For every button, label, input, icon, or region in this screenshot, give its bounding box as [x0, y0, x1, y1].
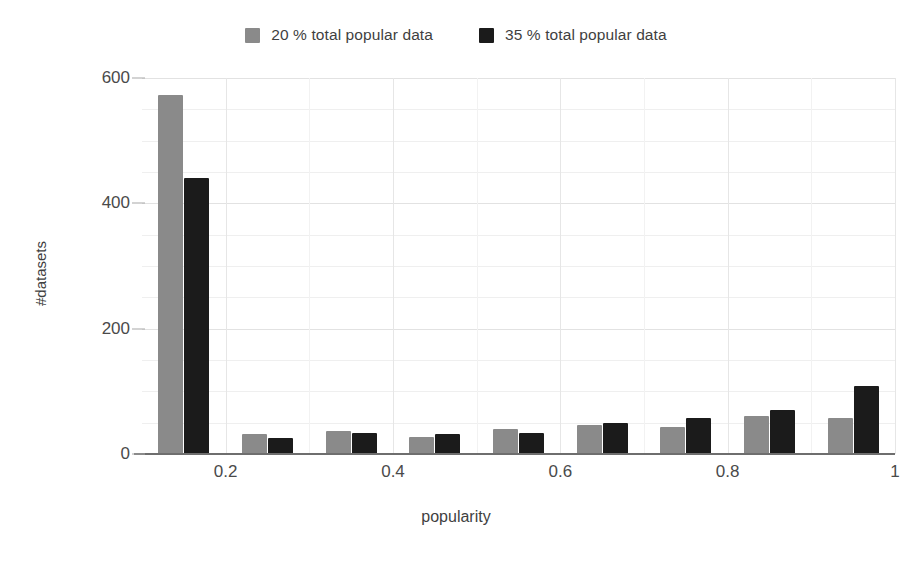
gridline-x-minor: [811, 78, 812, 454]
gridline-x-minor: [309, 78, 310, 454]
gridline-y-minor: [142, 141, 895, 142]
legend-swatch-series-1: [245, 28, 260, 43]
x-tick-label-1: 0.4: [381, 462, 405, 482]
bar-series-1-point-8[interactable]: [828, 418, 853, 454]
bar-series-2-point-4[interactable]: [519, 433, 544, 454]
legend-label-series-1: 20 % total popular data: [271, 26, 433, 44]
gridline-x-major: [895, 78, 896, 454]
bar-series-1-point-5[interactable]: [577, 425, 602, 454]
y-tick-mark-3: [132, 78, 145, 79]
y-axis-ticks: 0200400600: [52, 78, 130, 454]
gridline-y-minor: [142, 235, 895, 236]
bar-series-2-point-2[interactable]: [352, 433, 377, 454]
gridline-x-major: [728, 78, 729, 454]
bar-series-1-point-6[interactable]: [660, 427, 685, 454]
bar-series-2-point-0[interactable]: [184, 178, 209, 454]
x-axis-line: [134, 453, 895, 455]
x-axis-ticks: 0.20.40.60.81: [142, 462, 895, 492]
bar-series-2-point-8[interactable]: [854, 386, 879, 454]
gridline-y-minor: [142, 109, 895, 110]
y-tick-label-1: 200: [60, 319, 130, 339]
gridline-y-minor: [142, 172, 895, 173]
y-tick-label-2: 400: [60, 193, 130, 213]
gridline-x-minor: [644, 78, 645, 454]
x-axis-label: popularity: [0, 508, 912, 526]
legend-swatch-series-2: [479, 28, 494, 43]
bar-series-2-point-6[interactable]: [686, 418, 711, 454]
y-axis-label: #datasets: [32, 214, 49, 334]
y-tick-label-0: 0: [60, 444, 130, 464]
gridline-x-major: [560, 78, 561, 454]
y-tick-mark-2: [132, 203, 145, 204]
gridline-y-major: [142, 329, 895, 330]
bar-series-1-point-4[interactable]: [493, 429, 518, 454]
y-tick-mark-1: [132, 328, 145, 329]
legend-entry-series-2[interactable]: 35 % total popular data: [479, 26, 667, 44]
gridline-y-major: [142, 203, 895, 204]
bar-series-2-point-5[interactable]: [603, 423, 628, 454]
gridline-x-major: [226, 78, 227, 454]
bar-chart: 20 % total popular data 35 % total popul…: [0, 0, 912, 561]
x-tick-label-2: 0.6: [549, 462, 573, 482]
legend-entry-series-1[interactable]: 20 % total popular data: [245, 26, 433, 44]
y-tick-mark-0: [132, 454, 145, 455]
bar-series-1-point-1[interactable]: [242, 434, 267, 454]
bar-series-1-point-3[interactable]: [409, 437, 434, 454]
gridline-y-minor: [142, 391, 895, 392]
x-tick-label-4: 1: [890, 462, 899, 482]
gridline-y-major: [142, 78, 895, 79]
legend-label-series-2: 35 % total popular data: [505, 26, 667, 44]
bar-series-2-point-3[interactable]: [435, 434, 460, 454]
x-tick-label-3: 0.8: [716, 462, 740, 482]
gridline-y-minor: [142, 266, 895, 267]
x-tick-label-0: 0.2: [214, 462, 238, 482]
bar-series-2-point-7[interactable]: [770, 410, 795, 454]
gridline-x-major: [393, 78, 394, 454]
bar-series-1-point-0[interactable]: [158, 95, 183, 454]
chart-legend: 20 % total popular data 35 % total popul…: [0, 26, 912, 44]
gridline-y-minor: [142, 297, 895, 298]
y-tick-label-3: 600: [60, 68, 130, 88]
gridline-y-minor: [142, 360, 895, 361]
plot-area: [142, 78, 895, 454]
gridline-x-minor: [477, 78, 478, 454]
bar-series-1-point-7[interactable]: [744, 416, 769, 454]
bar-series-2-point-1[interactable]: [268, 438, 293, 454]
bar-series-1-point-2[interactable]: [326, 431, 351, 454]
